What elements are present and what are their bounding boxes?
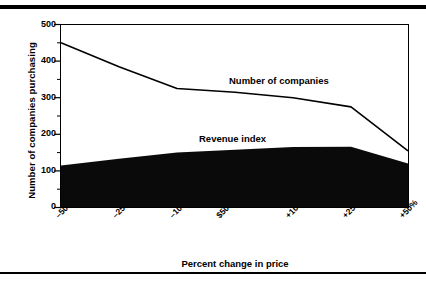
chart-figure: Number of companies purchasing Percent c…: [0, 9, 426, 272]
y-minor-ticks: [57, 43, 61, 189]
series-label-number-of-companies: Number of companies: [229, 75, 329, 86]
series-label-revenue-index: Revenue index: [199, 133, 266, 144]
bottom-divider-rule: [0, 272, 426, 274]
figure-page: Number of companies purchasing Percent c…: [0, 0, 426, 281]
